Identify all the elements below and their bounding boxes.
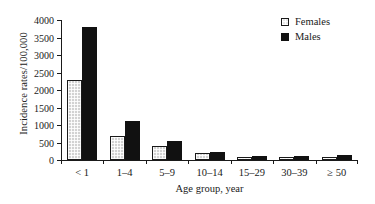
y-tick-label: 3000 — [34, 50, 54, 61]
x-tick-mark — [146, 160, 147, 164]
bar-female — [279, 157, 294, 160]
x-tick-mark — [61, 160, 62, 164]
legend-swatch-males-icon — [281, 33, 289, 41]
x-tick-mark — [316, 160, 317, 164]
bar-male — [337, 155, 352, 160]
x-tick-mark — [231, 160, 232, 164]
x-tick-label: < 1 — [75, 167, 89, 178]
y-axis-line — [61, 20, 62, 160]
bar-male — [82, 27, 97, 160]
x-tick-mark — [103, 160, 104, 164]
y-tick-label: 2500 — [34, 67, 54, 78]
bar-female — [322, 157, 337, 160]
x-tick-label: 5–9 — [159, 167, 175, 178]
x-axis-title: Age group, year — [61, 183, 358, 194]
y-tick-label: 0 — [49, 155, 54, 166]
bar-female — [152, 146, 167, 160]
y-tick-label: 1500 — [34, 102, 54, 113]
x-tick-mark — [188, 160, 189, 164]
y-tick-mark — [57, 20, 61, 21]
y-tick-mark — [57, 108, 61, 109]
y-tick-label: 3500 — [34, 32, 54, 43]
y-tick-mark — [57, 73, 61, 74]
y-axis-title: Incidence rates/100,000 — [18, 9, 29, 159]
bar-male — [252, 156, 267, 160]
y-tick-mark — [57, 38, 61, 39]
bar-male — [210, 152, 225, 160]
chart-legend: Females Males — [281, 14, 330, 44]
x-tick-label: ≥ 50 — [327, 167, 346, 178]
bar-male — [125, 121, 140, 160]
x-tick-label: 1–4 — [117, 167, 133, 178]
y-tick-label: 500 — [39, 137, 54, 148]
bar-female — [237, 157, 252, 160]
legend-swatch-females-icon — [281, 18, 289, 26]
y-tick-label: 4000 — [34, 15, 54, 26]
y-tick-mark — [57, 143, 61, 144]
legend-label-males: Males — [295, 31, 321, 42]
legend-label-females: Females — [295, 16, 330, 27]
bar-female — [67, 80, 82, 161]
bar-female — [110, 136, 125, 161]
y-tick-mark — [57, 55, 61, 56]
x-tick-mark — [273, 160, 274, 164]
legend-item-females: Females — [281, 14, 330, 29]
y-tick-label: 2000 — [34, 85, 54, 96]
x-tick-label: 10–14 — [196, 167, 222, 178]
x-tick-label: 15–29 — [239, 167, 265, 178]
bar-male — [167, 141, 182, 160]
y-tick-mark — [57, 90, 61, 91]
legend-item-males: Males — [281, 29, 330, 44]
y-tick-mark — [57, 125, 61, 126]
x-tick-mark — [357, 160, 358, 164]
bar-female — [195, 153, 210, 160]
x-tick-label: 30–39 — [281, 167, 307, 178]
incidence-rate-bar-chart: Incidence rates/100,000 0500100015002000… — [0, 0, 375, 204]
bar-male — [294, 156, 309, 160]
y-tick-label: 1000 — [34, 120, 54, 131]
x-axis-line — [61, 160, 358, 161]
